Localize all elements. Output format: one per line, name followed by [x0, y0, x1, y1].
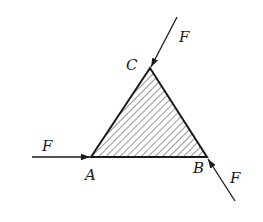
force-label-c: F	[178, 28, 190, 46]
force-arrow-c	[151, 17, 177, 67]
vertex-label-a: A	[83, 166, 96, 184]
force-label-a: F	[41, 137, 53, 155]
vertex-label-b: B	[192, 159, 204, 177]
force-diagram: A B C F F F	[0, 0, 263, 222]
vertex-label-c: C	[126, 56, 138, 74]
hatched-triangle	[91, 68, 207, 157]
diagram-svg: A B C F F F	[0, 0, 263, 222]
force-label-b: F	[229, 169, 241, 187]
